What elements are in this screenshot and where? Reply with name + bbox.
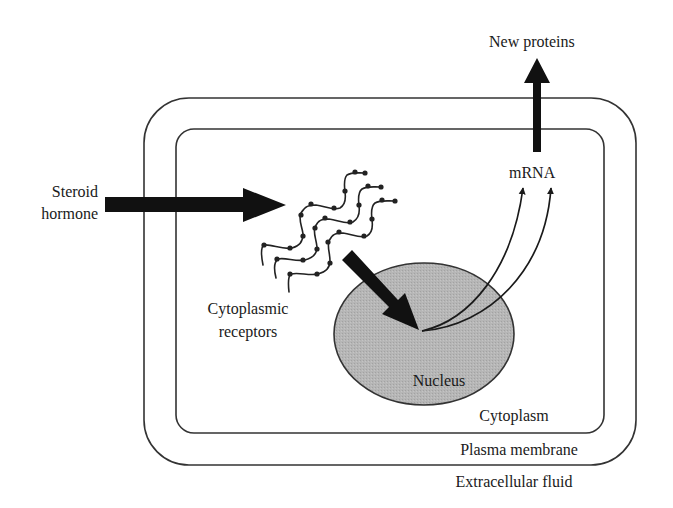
- label-extracellular-fluid: Extracellular fluid: [456, 473, 573, 490]
- label-new-proteins: New proteins: [489, 33, 575, 51]
- label-steroid-hormone-line2: hormone: [41, 205, 98, 222]
- steroid-hormone-arrow: [105, 188, 286, 222]
- label-steroid-hormone-line1: Steroid: [52, 183, 98, 200]
- label-cytoplasm: Cytoplasm: [479, 407, 549, 425]
- label-cytoplasmic-receptors-line2: receptors: [219, 323, 278, 341]
- steroid-hormone-diagram: New proteins mRNA Steroid hormone Cytopl…: [0, 0, 673, 508]
- label-plasma-membrane: Plasma membrane: [460, 441, 578, 458]
- label-cytoplasmic-receptors-line1: Cytoplasmic: [208, 300, 289, 318]
- label-mrna: mRNA: [509, 164, 556, 181]
- label-nucleus: Nucleus: [413, 372, 465, 389]
- new-proteins-arrow: [524, 58, 550, 152]
